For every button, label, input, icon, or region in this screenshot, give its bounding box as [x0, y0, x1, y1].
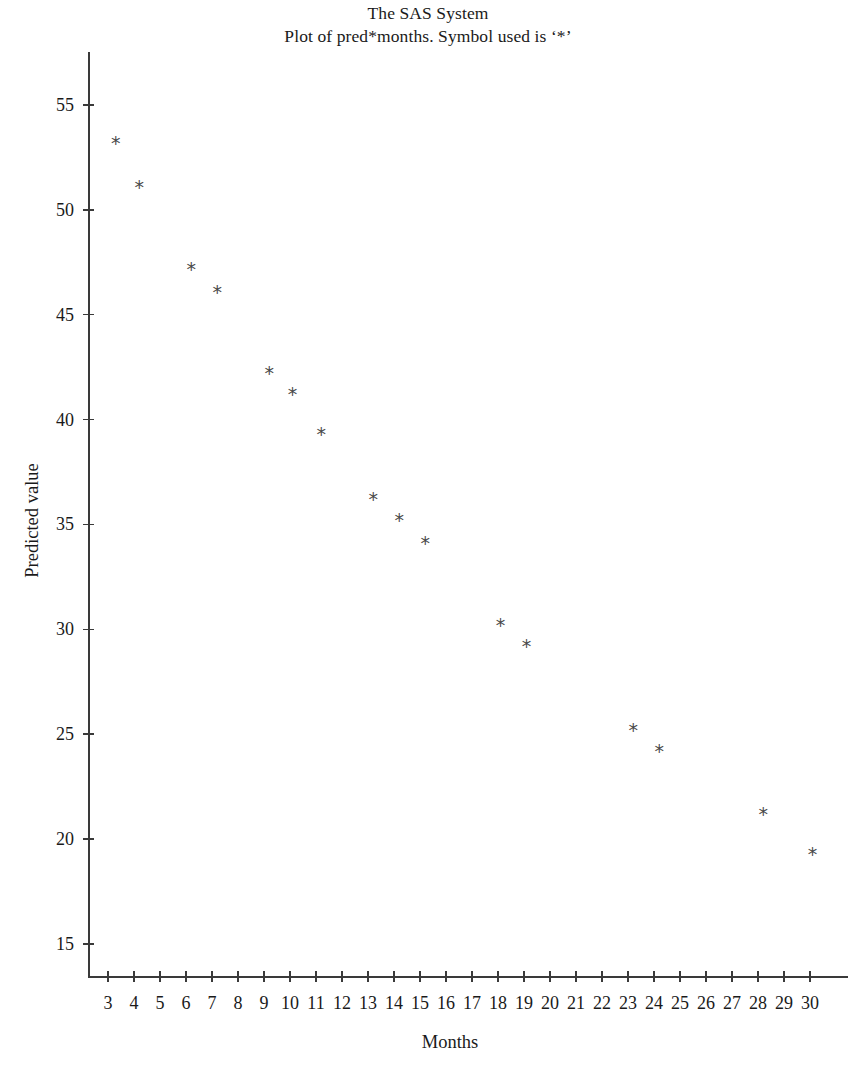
y-axis-tick — [83, 419, 94, 421]
data-point-marker: * — [288, 385, 298, 404]
x-axis-tick-label: 30 — [792, 993, 828, 1014]
y-axis-tick — [83, 314, 94, 316]
x-axis-tick — [315, 971, 317, 982]
x-axis-title: Months — [0, 1032, 856, 1053]
x-axis-tick — [159, 971, 161, 982]
y-axis-tick-label: 50 — [26, 199, 74, 220]
x-axis-tick — [809, 971, 811, 982]
y-axis-tick — [83, 524, 94, 526]
x-axis-tick — [679, 971, 681, 982]
x-axis-tick — [185, 971, 187, 982]
data-point-marker: * — [111, 133, 121, 152]
x-axis-tick — [471, 971, 473, 982]
x-axis-tick — [133, 971, 135, 982]
x-axis-tick — [731, 971, 733, 982]
x-axis-tick — [289, 971, 291, 982]
x-axis-tick — [211, 971, 213, 982]
data-point-marker: * — [758, 804, 768, 823]
plot-area: 152025303540455055 345678910111213141516… — [0, 0, 856, 1084]
x-axis-line — [88, 976, 848, 978]
data-point-marker: * — [628, 720, 638, 739]
x-axis-tick — [575, 971, 577, 982]
data-point-marker: * — [264, 364, 274, 383]
y-axis-tick-label: 15 — [26, 933, 74, 954]
x-axis-tick — [497, 971, 499, 982]
y-axis-tick — [83, 104, 94, 106]
x-axis-tick — [445, 971, 447, 982]
data-point-marker: * — [496, 616, 506, 635]
y-axis-tick — [83, 629, 94, 631]
data-point-marker: * — [368, 490, 378, 509]
x-axis-tick — [705, 971, 707, 982]
x-axis-tick — [419, 971, 421, 982]
data-point-marker: * — [186, 259, 196, 278]
x-axis-tick — [393, 971, 395, 982]
y-axis-tick-label: 20 — [26, 828, 74, 849]
data-point-marker: * — [394, 511, 404, 530]
x-axis-tick — [263, 971, 265, 982]
y-axis-tick — [83, 838, 94, 840]
y-axis-tick — [83, 733, 94, 735]
x-axis-tick — [549, 971, 551, 982]
y-axis-tick — [83, 209, 94, 211]
x-axis-tick — [757, 971, 759, 982]
sas-scatter-plot-figure: The SAS System Plot of pred*months. Symb… — [0, 0, 856, 1084]
x-axis-tick — [107, 971, 109, 982]
y-axis-tick — [83, 943, 94, 945]
data-point-marker: * — [654, 741, 664, 760]
x-axis-tick — [601, 971, 603, 982]
x-axis-tick — [367, 971, 369, 982]
x-axis-tick — [653, 971, 655, 982]
x-axis-tick — [341, 971, 343, 982]
data-point-marker: * — [212, 282, 222, 301]
data-point-marker: * — [808, 844, 818, 863]
y-axis-tick-label: 25 — [26, 724, 74, 745]
x-axis-tick — [237, 971, 239, 982]
y-axis-tick-label: 45 — [26, 304, 74, 325]
data-point-marker: * — [134, 177, 144, 196]
y-axis-title: Predicted value — [22, 421, 43, 621]
x-axis-tick — [523, 971, 525, 982]
data-point-marker: * — [420, 534, 430, 553]
data-point-marker: * — [522, 637, 532, 656]
x-axis-tick — [627, 971, 629, 982]
x-axis-tick — [783, 971, 785, 982]
data-point-marker: * — [316, 425, 326, 444]
y-axis-tick-label: 30 — [26, 619, 74, 640]
y-axis-tick-label: 55 — [26, 95, 74, 116]
